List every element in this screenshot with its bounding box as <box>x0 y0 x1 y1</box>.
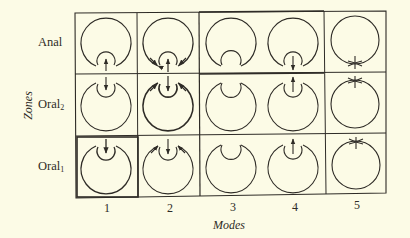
glyph-oral2-mode1 <box>81 77 131 131</box>
glyph-oral1-mode4 <box>268 139 318 193</box>
glyph-anal-mode3 <box>206 18 256 66</box>
glyph-oral1-mode1 <box>81 139 131 194</box>
glyph-oral1-mode2 <box>143 139 193 194</box>
glyph-oral2-mode3 <box>206 83 256 131</box>
glyph-anal-mode1 <box>81 18 131 71</box>
glyph-oral2-mode4 <box>268 77 318 131</box>
glyph-anal-mode2 <box>143 18 193 72</box>
glyph-oral1-mode5 <box>332 137 380 189</box>
glyph-anal-mode5 <box>331 16 379 69</box>
glyph-oral2-mode2 <box>143 76 193 131</box>
grid-lines <box>75 11 386 198</box>
diagram-graphic <box>0 0 410 238</box>
glyph-oral2-mode5 <box>331 76 379 128</box>
glyph-oral1-mode3 <box>206 145 256 193</box>
glyph-anal-mode4 <box>268 18 318 70</box>
